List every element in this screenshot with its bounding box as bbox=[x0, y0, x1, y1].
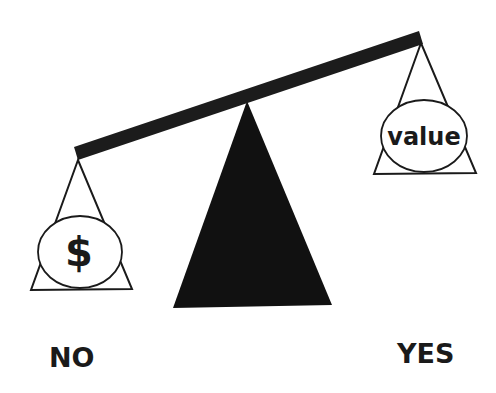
value-text: value bbox=[387, 123, 460, 151]
left-pan: $ bbox=[31, 160, 132, 290]
balance-scale-diagram: $ value bbox=[0, 0, 496, 393]
no-label: NO bbox=[49, 344, 95, 371]
yes-label: YES bbox=[397, 340, 454, 367]
fulcrum-triangle bbox=[173, 101, 332, 308]
right-pan: value bbox=[374, 43, 476, 174]
dollar-sign-icon: $ bbox=[65, 229, 93, 275]
